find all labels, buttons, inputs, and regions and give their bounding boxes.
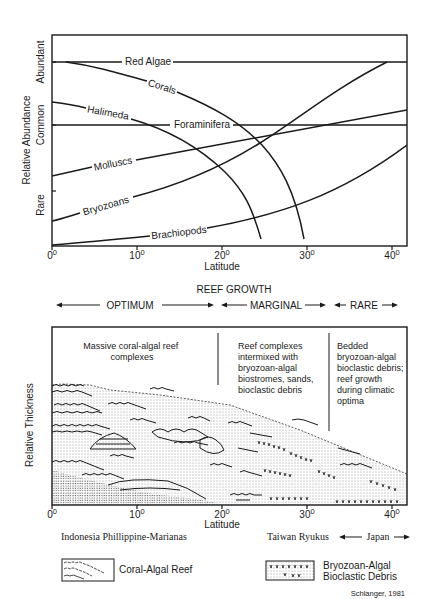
svg-text:300: 300: [299, 507, 314, 520]
region-indonesia: Indonesia Phillippine-Marianas: [61, 531, 187, 542]
y-axis-title: Relative Abundance: [21, 95, 32, 184]
y-axis-title-thickness: Relative Thickness: [24, 383, 35, 467]
y-tick-rare: Rare: [35, 194, 46, 216]
label-halimeda: Halimeda: [86, 103, 130, 121]
figure: Abundant Common Rare Relative Abundance …: [0, 0, 432, 599]
svg-text:300: 300: [299, 248, 314, 261]
plot-frame: [52, 35, 407, 246]
x-axis-title: Latitude: [204, 261, 240, 272]
zone-marginal-description: Reef complexes intermixed with bryozoan-…: [238, 341, 316, 395]
svg-text:100: 100: [129, 507, 144, 520]
zone-marginal: MARGINAL: [250, 300, 303, 311]
y-tick-common: Common: [35, 105, 46, 146]
legend: Coral-Algal Reef Bryozoan-Algal Bioclast…: [62, 559, 405, 598]
label-red-algae: Red Algae: [125, 56, 172, 67]
region-taiwan: Taiwan Ryukus: [267, 531, 329, 542]
series-bryozoans: [52, 62, 387, 221]
zone-rare-description: Bedded bryozoan-algal bioclastic debris;…: [337, 341, 406, 406]
legend-swatch-coral: [62, 559, 114, 581]
region-japan: Japan: [367, 531, 390, 542]
zone-optimum: OPTIMUM: [106, 300, 153, 311]
svg-text:100: 100: [129, 248, 144, 261]
x-tick-labels: 00 100 200 300 400: [47, 248, 400, 261]
zone-optimum-description: Massive coral-algal reef complexes: [83, 341, 181, 362]
abundance-chart: Abundant Common Rare Relative Abundance …: [21, 35, 407, 272]
svg-text:400: 400: [384, 248, 399, 261]
x-axis-title-bottom: Latitude: [204, 519, 240, 530]
label-brachiopods: Brachiopods: [151, 224, 208, 242]
thickness-diagram: Massive coral-algal reef complexes Reef …: [24, 327, 410, 542]
label-molluscs: Molluscs: [93, 154, 133, 172]
reef-growth-title: REEF GROWTH: [197, 284, 272, 295]
label-bryozoans: Bryozoans: [82, 194, 130, 218]
label-corals: Corals: [147, 77, 178, 96]
legend-label-bryozoan: Bryozoan-Algal Bioclastic Debris: [323, 560, 397, 582]
credit: Schlanger, 1981: [351, 589, 405, 598]
legend-label-coral: Coral-Algal Reef: [119, 564, 193, 575]
svg-text:00: 00: [47, 507, 57, 520]
svg-text:200: 200: [214, 248, 229, 261]
reef-growth-header: REEF GROWTH OPTIMUM MARGINAL RARE: [56, 284, 398, 311]
svg-text:00: 00: [47, 248, 57, 261]
legend-swatch-bryozoan: [266, 561, 314, 580]
zone-rare: RARE: [350, 300, 378, 311]
svg-text:400: 400: [384, 507, 399, 520]
label-foraminifera: Foraminifera: [174, 119, 231, 130]
y-tick-abundant: Abundant: [35, 40, 46, 83]
